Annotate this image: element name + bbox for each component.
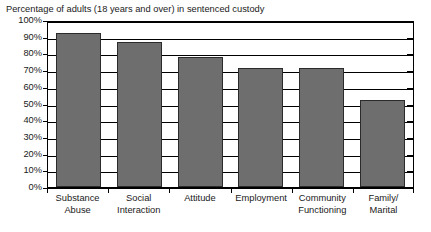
bar[interactable] — [178, 57, 223, 187]
y-axis-tick — [43, 54, 47, 55]
y-axis-tick-label: 100% — [18, 16, 42, 25]
y-axis-tick-label: 50% — [23, 100, 42, 109]
y-axis-tick-right — [407, 54, 414, 55]
y-axis-tick — [43, 155, 47, 156]
y-axis-tick-right — [407, 88, 414, 89]
y-axis-tick — [43, 105, 47, 106]
y-axis-tick — [43, 138, 47, 139]
y-axis-tick — [43, 21, 47, 22]
y-axis-tick — [43, 38, 47, 39]
y-axis-tick — [43, 188, 47, 189]
bar-band — [109, 22, 170, 187]
bar[interactable] — [299, 68, 344, 187]
bar[interactable] — [56, 33, 101, 187]
bar-band — [352, 22, 413, 187]
y-axis-tick — [43, 121, 47, 122]
chart-title: Percentage of adults (18 years and over)… — [6, 3, 264, 15]
y-axis-tick-label: 80% — [23, 50, 42, 59]
x-axis-category-label: SubstanceAbuse — [47, 193, 108, 216]
bar-band — [291, 22, 352, 187]
y-axis-tick-right — [407, 188, 414, 189]
y-axis-tick-label: 60% — [23, 83, 42, 92]
x-axis-category-line: Employment — [231, 193, 292, 205]
x-axis-category-line: Community — [292, 193, 353, 205]
x-axis-category-label: Attitude — [169, 193, 230, 216]
y-axis-tick-label: 90% — [23, 33, 42, 42]
y-axis-tick-right — [407, 21, 414, 22]
y-axis-tick-right — [407, 121, 414, 122]
bar[interactable] — [360, 100, 405, 187]
x-axis-category-label: Employment — [231, 193, 292, 216]
y-axis-tick-right — [407, 105, 414, 106]
y-axis-tick-right — [407, 71, 414, 72]
bar[interactable] — [117, 42, 162, 187]
y-axis-tick-label: 40% — [23, 117, 42, 126]
bar-band — [230, 22, 291, 187]
x-axis-category-line: Attitude — [169, 193, 230, 205]
bars-layer — [48, 22, 413, 187]
y-axis-tick — [43, 171, 47, 172]
y-axis-tick-right — [407, 171, 414, 172]
y-axis-tick-label: 20% — [23, 150, 42, 159]
y-axis-tick — [43, 88, 47, 89]
x-axis-category-line: Marital — [353, 205, 414, 217]
y-axis-tick-label: 0% — [29, 183, 42, 192]
y-axis-tick-label: 10% — [23, 167, 42, 176]
y-axis-tick-right — [407, 155, 414, 156]
y-axis-tick-right — [407, 138, 414, 139]
bar-band — [48, 22, 109, 187]
x-axis-category-line: Functioning — [292, 205, 353, 217]
bar-chart: Percentage of adults (18 years and over)… — [0, 0, 431, 232]
bar[interactable] — [238, 68, 283, 187]
x-axis-labels: SubstanceAbuseSocialInteractionAttitudeE… — [47, 193, 414, 216]
x-axis-category-label: Family/Marital — [353, 193, 414, 216]
x-axis-category-label: CommunityFunctioning — [292, 193, 353, 216]
plot-area — [47, 21, 414, 188]
bar-band — [170, 22, 231, 187]
x-axis-category-label: SocialInteraction — [108, 193, 169, 216]
x-axis-category-line: Abuse — [47, 205, 108, 217]
y-axis-tick — [43, 71, 47, 72]
x-axis-category-line: Family/ — [353, 193, 414, 205]
y-axis-tick-right — [407, 38, 414, 39]
y-axis-tick-label: 70% — [23, 66, 42, 75]
y-axis-tick-label: 30% — [23, 133, 42, 142]
y-axis-labels: 100%90%80%70%60%50%40%30%20%10%0% — [0, 21, 42, 188]
x-axis-category-line: Interaction — [108, 205, 169, 217]
x-axis-category-line: Substance — [47, 193, 108, 205]
x-axis-category-line: Social — [108, 193, 169, 205]
